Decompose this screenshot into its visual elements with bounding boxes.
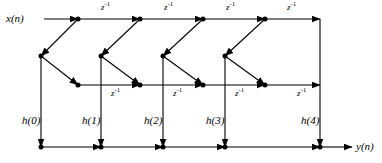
- delay-label-middle-2: z-1: [173, 89, 182, 98]
- input-signal-label: x(n): [6, 13, 24, 24]
- diagonal-in-h1: [101, 19, 140, 56]
- node-middle-2: [138, 83, 143, 88]
- delay-exp-middle-3: -1: [239, 86, 245, 94]
- diagonal-out-h1: [101, 56, 140, 85]
- node-bottom-1: [39, 145, 44, 150]
- coefficient-label-h3: h(3): [206, 115, 224, 126]
- delay-exp-middle-4: -1: [301, 86, 307, 94]
- diagonal-out-h0: [41, 56, 78, 85]
- node-adder-2: [99, 54, 104, 59]
- coefficient-label-h0: h(0): [22, 115, 40, 126]
- node-middle-1: [76, 83, 81, 88]
- delay-exp-middle-2: -1: [177, 86, 183, 94]
- diagonal-in-h3: [225, 19, 265, 56]
- node-bottom-4: [223, 145, 228, 150]
- node-bottom-5: [318, 145, 323, 150]
- node-adder-3: [161, 54, 166, 59]
- delay-exp-top-4: -1: [291, 0, 297, 8]
- node-top-1: [76, 17, 81, 22]
- node-middle-3: [201, 83, 206, 88]
- node-top-2: [138, 17, 143, 22]
- diagonal-branches: [41, 19, 265, 85]
- node-top-4: [263, 17, 268, 22]
- node-middle-4: [263, 83, 268, 88]
- coefficient-label-h4: h(4): [301, 115, 319, 126]
- delay-label-middle-4: z-1: [297, 89, 306, 98]
- coefficient-branches: [41, 19, 320, 147]
- flow-graph-canvas: [0, 0, 382, 163]
- delay-exp-top-2: -1: [168, 0, 174, 8]
- delay-exp-top-3: -1: [230, 0, 236, 8]
- coefficient-label-h1: h(1): [82, 115, 100, 126]
- delay-label-top-4: z-1: [287, 3, 296, 12]
- delay-exp-middle-1: -1: [115, 86, 121, 94]
- diagonal-out-h2: [163, 56, 203, 85]
- node-bottom-3: [161, 145, 166, 150]
- node-top-3: [201, 17, 206, 22]
- delay-label-middle-1: z-1: [111, 89, 120, 98]
- output-signal-label: y(n): [356, 141, 374, 152]
- node-adder-1: [39, 54, 44, 59]
- coefficient-label-h2: h(2): [144, 115, 162, 126]
- diagonal-in-h2: [163, 19, 203, 56]
- delay-label-top-1: z-1: [101, 3, 110, 12]
- diagonal-in-h0: [41, 19, 78, 56]
- delay-exp-top-1: -1: [105, 0, 111, 8]
- delay-label-top-2: z-1: [164, 3, 173, 12]
- signal-flow-diagram: x(n) y(n) z-1 z-1 z-1 z-1 z-1 z-1 z-1 z-…: [0, 0, 382, 163]
- delay-label-top-3: z-1: [226, 3, 235, 12]
- node-bottom-2: [99, 145, 104, 150]
- graph-nodes: [39, 17, 323, 150]
- node-adder-4: [223, 54, 228, 59]
- diagonal-out-h3: [225, 56, 265, 85]
- delay-label-middle-3: z-1: [235, 89, 244, 98]
